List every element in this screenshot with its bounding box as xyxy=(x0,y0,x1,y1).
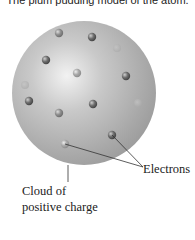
electron-icon xyxy=(88,33,96,41)
cloud-label: Cloud of positive charge xyxy=(22,183,98,215)
electron-icon xyxy=(55,29,63,37)
electron-icon xyxy=(113,44,121,52)
cloud-label-line-1: Cloud of xyxy=(22,183,98,199)
electron-icon xyxy=(134,99,142,107)
electron-icon xyxy=(21,81,29,89)
cloud-label-line-2: positive charge xyxy=(22,199,98,215)
positive-charge-cloud xyxy=(12,21,156,165)
electron-icon xyxy=(89,100,97,108)
electron-icon xyxy=(122,72,130,80)
electron-icon xyxy=(73,69,81,77)
electron-icon xyxy=(55,109,63,117)
electron-icon xyxy=(42,56,50,64)
electron-icon xyxy=(25,97,33,105)
electrons-label: Electrons xyxy=(143,161,190,177)
